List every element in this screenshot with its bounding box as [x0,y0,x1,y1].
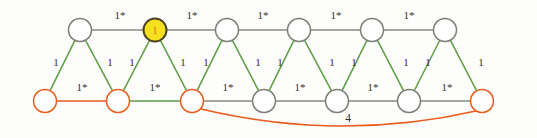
graph-node[interactable] [253,90,276,113]
edge-weight-label: 1* [295,81,306,93]
graph-node[interactable] [288,19,311,42]
graph-edge [304,40,331,91]
graph-node[interactable] [181,90,204,113]
graph-node[interactable] [471,90,494,113]
node-labels-group: 1 [152,24,158,36]
edge-weight-label: 1 [203,56,209,68]
edge-weight-label: 1* [187,9,198,21]
node-label: 1 [152,24,158,36]
graph-figure: 4 1*1*1*1*1*1*1*1*1*1*1*111111111111 1 [0,0,537,138]
edge-weight-label: 1 [425,56,431,68]
edge-weight-label: 1 [129,56,135,68]
edge-weight-label: 1 [53,56,59,68]
graph-node[interactable] [34,90,57,113]
edge-weight-label: 1 [277,56,283,68]
edge-weight-label: 1* [223,81,234,93]
graph-node[interactable] [69,19,92,42]
edge-weight-label: 1* [77,81,88,93]
graph-node[interactable] [361,19,384,42]
edge-weight-label: 1* [368,81,379,93]
graph-node[interactable] [398,90,421,113]
graph-node[interactable] [434,19,457,42]
edge-weight-label: 1 [329,56,335,68]
edge-weight-label: 1 [180,56,186,68]
edge-weight-label: 1* [404,9,415,21]
edge-weight-label: 1 [351,56,357,68]
edge-weight-label: 1 [478,56,484,68]
long-edge-weight-label: 4 [345,112,351,124]
edge-weight-label: 1* [331,9,342,21]
edge-weight-label: 1 [255,56,261,68]
edge-weight-label: 1* [258,9,269,21]
graph-edge [197,40,222,90]
graph-node[interactable] [216,19,239,42]
edge-weight-label: 1 [403,56,409,68]
edge-weight-label: 1 [107,56,113,68]
graph-node[interactable] [326,90,349,113]
graph-canvas: 4 1*1*1*1*1*1*1*1*1*1*1*111111111111 1 [0,0,537,138]
graph-node[interactable] [107,90,130,113]
edge-weight-label: 1* [442,81,453,93]
graph-edge [377,40,403,91]
edge-weight-label: 1* [115,9,126,21]
graph-edge [123,40,149,91]
graph-edge [450,40,476,91]
edge-weight-label: 1* [150,81,161,93]
